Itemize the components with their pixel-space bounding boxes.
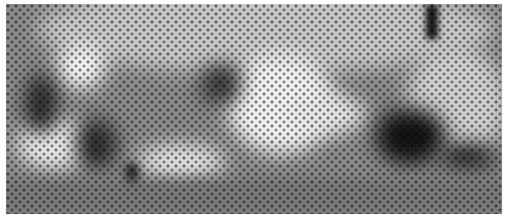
halftone-texture xyxy=(6,4,502,214)
halftone-photo xyxy=(6,4,502,214)
image-canvas: Halftone dithered grayscale photograph o… xyxy=(0,0,507,220)
